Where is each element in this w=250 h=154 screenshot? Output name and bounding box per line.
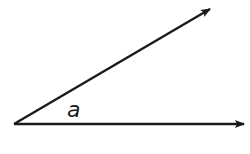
angle-diagram: a (0, 0, 250, 154)
upper-ray (14, 9, 210, 124)
angle-label: a (67, 97, 80, 122)
